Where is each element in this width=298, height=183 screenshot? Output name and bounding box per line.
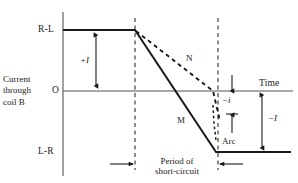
- curve-m-label: M: [177, 115, 185, 125]
- y-axis-caption-line3: coil B: [3, 97, 31, 108]
- origin-label: O: [52, 85, 59, 96]
- y-axis-caption-line1: Current: [3, 74, 31, 85]
- y-axis-caption: Current through coil B: [3, 74, 31, 108]
- small-negative-current-label: −i: [222, 95, 231, 105]
- curve-n-dashed: [136, 31, 220, 121]
- y-tick-top-label: R-L: [38, 24, 54, 35]
- curve-n-label: N: [186, 53, 193, 63]
- arc-label: Arc: [222, 136, 236, 146]
- y-axis-caption-line2: through: [3, 85, 31, 96]
- y-tick-bottom-label: L-R: [38, 146, 54, 157]
- negative-current-label: −I: [268, 113, 277, 123]
- arc-dashed-tail: [213, 105, 216, 140]
- figure-canvas: R-L O L-R Current through coil B Time N …: [0, 0, 298, 183]
- period-note-line1: Period of: [141, 156, 213, 166]
- period-note-line2: short-circuit: [141, 166, 213, 176]
- positive-current-label: +I: [80, 55, 89, 65]
- x-axis-label: Time: [259, 78, 280, 89]
- period-of-short-circuit-note: Period of short-circuit: [141, 156, 213, 176]
